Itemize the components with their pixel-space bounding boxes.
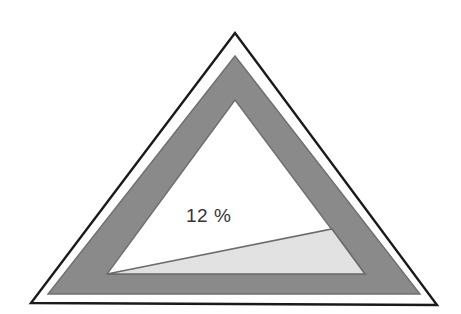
nested-triangle-diagram	[0, 0, 461, 314]
percentage-label: 12 %	[186, 205, 231, 227]
figure-root: 12 %	[0, 0, 461, 314]
